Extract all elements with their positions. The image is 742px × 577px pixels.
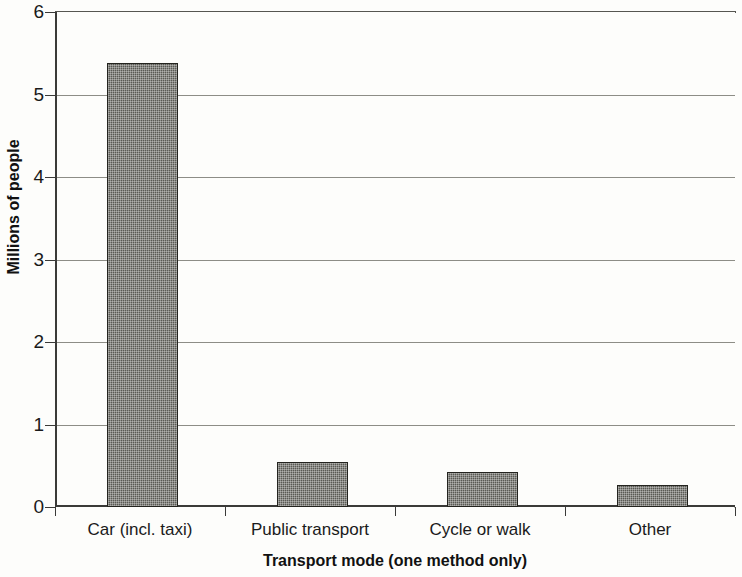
- y-axis-tick-mark: [45, 95, 55, 96]
- y-axis-tick-mark: [45, 12, 55, 13]
- bar-chart: Millions of people 0123456 Car (incl. ta…: [0, 0, 742, 577]
- bar: [277, 462, 348, 507]
- y-axis-tick-mark: [45, 425, 55, 426]
- y-axis-tick-label: 5: [18, 85, 44, 104]
- x-axis-category-label: Public transport: [225, 519, 395, 541]
- y-axis-tick-label: 6: [18, 2, 44, 21]
- y-axis-tick-mark: [45, 342, 55, 343]
- y-axis-tick-label: 2: [18, 332, 44, 351]
- y-axis-tick-label: 4: [18, 167, 44, 186]
- bar: [447, 472, 518, 507]
- y-axis-tick-label: 3: [18, 250, 44, 269]
- y-axis-tick-mark: [45, 177, 55, 178]
- x-axis-category-label: Cycle or walk: [395, 519, 565, 541]
- y-axis-tick-mark: [45, 507, 55, 508]
- x-axis-category-label: Car (incl. taxi): [55, 519, 225, 541]
- x-axis-category-label: Other: [565, 519, 735, 541]
- y-axis-tick-label: 0: [18, 497, 44, 516]
- y-axis-tick-mark: [45, 260, 55, 261]
- y-axis-tick-labels: 0123456: [18, 0, 44, 577]
- bar: [107, 63, 178, 507]
- x-axis-tick-mark: [55, 507, 56, 516]
- x-axis-title: Transport mode (one method only): [55, 551, 735, 571]
- y-axis-tick-label: 1: [18, 415, 44, 434]
- plot-area: [55, 12, 735, 507]
- x-axis-tick-mark: [565, 507, 566, 516]
- bar: [617, 485, 688, 507]
- x-axis-tick-mark: [395, 507, 396, 516]
- x-axis-tick-mark: [225, 507, 226, 516]
- x-axis-tick-mark: [735, 507, 736, 516]
